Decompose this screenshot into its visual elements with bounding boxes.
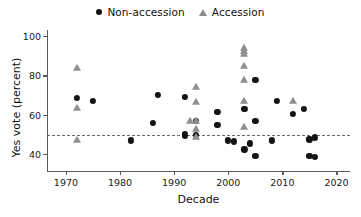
legend-entry-non-accession: Non-accession xyxy=(96,6,184,18)
data-point xyxy=(231,138,237,144)
data-point xyxy=(312,134,318,140)
data-point xyxy=(252,153,258,159)
legend-label-accession: Accession xyxy=(212,6,265,18)
data-point xyxy=(312,154,318,160)
chart-legend: Non-accession Accession xyxy=(0,2,361,22)
data-point xyxy=(90,98,96,104)
x-axis-line xyxy=(47,171,350,172)
data-point xyxy=(128,137,134,143)
data-point xyxy=(252,118,258,124)
y-axis-line xyxy=(47,30,48,172)
x-tick-2020 xyxy=(336,171,337,175)
data-point xyxy=(289,97,297,104)
y-tick-label-100: 100 xyxy=(23,30,41,41)
y-axis-label: Yes vote (percent) xyxy=(10,38,23,178)
x-tick-1970 xyxy=(66,171,67,175)
data-point xyxy=(241,106,247,112)
x-tick-1990 xyxy=(174,171,175,175)
data-point xyxy=(240,62,248,69)
data-point xyxy=(155,92,161,98)
y-tick-100 xyxy=(43,36,47,37)
y-tick-40 xyxy=(43,154,47,155)
x-tick-label-2020: 2020 xyxy=(324,177,348,188)
x-tick-2010 xyxy=(282,171,283,175)
data-point xyxy=(192,116,200,123)
x-axis-label: Decade xyxy=(47,193,350,206)
x-tick-label-1990: 1990 xyxy=(162,177,186,188)
data-point xyxy=(192,83,200,90)
data-point xyxy=(240,49,248,56)
y-tick-label-40: 40 xyxy=(29,149,41,160)
data-point xyxy=(73,104,81,111)
data-point xyxy=(274,98,280,104)
y-tick-label-80: 80 xyxy=(29,70,41,81)
data-point xyxy=(301,106,307,112)
x-tick-label-2000: 2000 xyxy=(216,177,240,188)
data-point xyxy=(73,136,81,143)
data-point xyxy=(182,94,188,100)
data-point xyxy=(247,140,253,146)
data-point xyxy=(73,64,81,71)
data-point xyxy=(240,76,248,83)
data-point xyxy=(182,132,188,138)
data-point xyxy=(241,146,247,152)
data-point xyxy=(240,122,248,129)
data-point xyxy=(252,77,258,83)
y-tick-label-60: 60 xyxy=(29,109,41,120)
y-tick-60 xyxy=(43,115,47,116)
x-tick-2000 xyxy=(228,171,229,175)
y-tick-80 xyxy=(43,75,47,76)
scatter-chart-figure: Non-accession Accession 406080100 197019… xyxy=(0,0,361,217)
data-point xyxy=(149,120,155,126)
x-tick-label-1980: 1980 xyxy=(108,177,132,188)
data-point xyxy=(74,95,80,101)
triangle-marker-icon xyxy=(199,9,207,16)
data-point xyxy=(240,97,248,104)
plot-area: 406080100 197019801990200020102020 xyxy=(47,30,350,172)
x-tick-1980 xyxy=(120,171,121,175)
x-tick-label-2010: 2010 xyxy=(270,177,294,188)
data-point xyxy=(214,109,220,115)
data-point xyxy=(268,137,274,143)
data-point xyxy=(192,133,200,140)
legend-label-non-accession: Non-accession xyxy=(107,6,184,18)
x-tick-label-1970: 1970 xyxy=(54,177,78,188)
data-point xyxy=(214,122,220,128)
circle-marker-icon xyxy=(96,9,102,15)
data-point xyxy=(192,98,200,105)
data-point xyxy=(290,111,296,117)
data-point xyxy=(192,124,200,131)
legend-entry-accession: Accession xyxy=(199,6,265,18)
